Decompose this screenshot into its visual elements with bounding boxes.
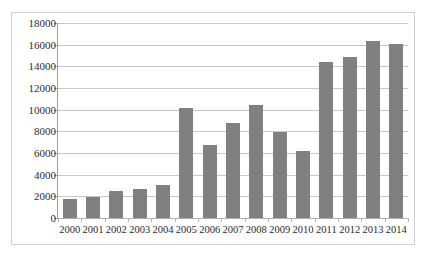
x-tick-mark: [385, 218, 386, 222]
chart-frame: 0200040006000800010000120001400016000180…: [11, 12, 415, 245]
x-tick-mark: [221, 218, 222, 222]
y-tick-label: 0: [0, 213, 56, 224]
bar[interactable]: [203, 145, 217, 218]
x-tick-mark: [58, 218, 59, 222]
plot-area: 0200040006000800010000120001400016000180…: [58, 23, 408, 218]
x-tick-mark: [198, 218, 199, 222]
bar[interactable]: [249, 105, 263, 218]
gridline-0: [58, 218, 408, 219]
bar[interactable]: [109, 191, 123, 218]
bar[interactable]: [133, 189, 147, 218]
bar[interactable]: [366, 41, 380, 218]
x-tick-mark: [245, 218, 246, 222]
bar[interactable]: [86, 197, 100, 218]
y-tick-label: 14000: [0, 61, 56, 72]
x-tick-mark: [268, 218, 269, 222]
x-tick-label: 2014: [376, 224, 416, 236]
x-tick-mark: [408, 218, 409, 222]
x-tick-mark: [81, 218, 82, 222]
x-tick-mark: [175, 218, 176, 222]
bar[interactable]: [273, 132, 287, 218]
y-tick-label: 8000: [0, 126, 56, 137]
x-tick-mark: [291, 218, 292, 222]
x-tick-mark: [151, 218, 152, 222]
y-tick-label: 18000: [0, 18, 56, 29]
x-tick-mark: [128, 218, 129, 222]
gridline-18000: [58, 23, 408, 24]
bar[interactable]: [179, 108, 193, 219]
bar[interactable]: [389, 44, 403, 218]
x-tick-mark: [105, 218, 106, 222]
bar[interactable]: [296, 151, 310, 218]
y-tick-label: 16000: [0, 40, 56, 51]
bar[interactable]: [63, 199, 77, 219]
bar[interactable]: [319, 62, 333, 218]
y-axis-line: [57, 23, 58, 218]
x-tick-mark: [338, 218, 339, 222]
x-tick-mark: [315, 218, 316, 222]
bar[interactable]: [156, 185, 170, 218]
gridline-16000: [58, 45, 408, 46]
y-tick-label: 12000: [0, 83, 56, 94]
y-tick-label: 10000: [0, 105, 56, 116]
x-tick-mark: [361, 218, 362, 222]
bar[interactable]: [226, 123, 240, 218]
y-tick-label: 6000: [0, 148, 56, 159]
y-tick-label: 4000: [0, 170, 56, 181]
bar[interactable]: [343, 57, 357, 218]
y-tick-label: 2000: [0, 191, 56, 202]
